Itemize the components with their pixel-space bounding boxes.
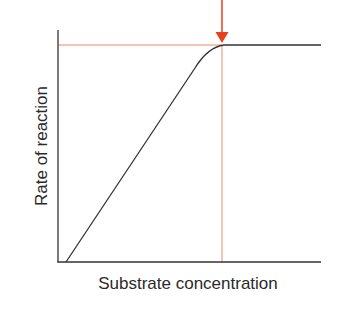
rate-curve xyxy=(66,45,321,262)
y-axis-label: Rate of reaction xyxy=(32,86,51,206)
enzyme-rate-chart: Substrate concentration Rate of reaction xyxy=(0,0,341,317)
saturation-arrow-icon xyxy=(216,0,229,43)
x-axis-label: Substrate concentration xyxy=(98,274,278,293)
